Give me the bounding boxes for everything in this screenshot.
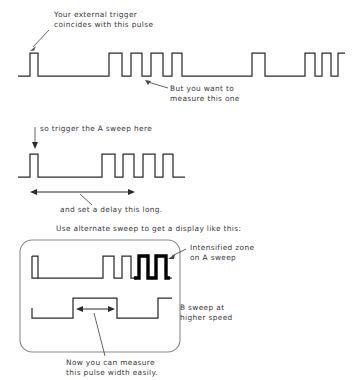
intensified-note-line1: Intensified zone	[190, 243, 254, 252]
trigger-note-line1: Your external trigger	[53, 10, 138, 19]
pulse-width-arrowhead-right	[108, 306, 115, 312]
panel-2-a-sweep-trigger: so trigger the A sweep here and set a de…	[18, 124, 185, 214]
intensified-zone-trace	[134, 256, 170, 278]
delay-span-arrowhead-left	[30, 189, 37, 195]
a-sweep-note-arrowhead	[32, 142, 38, 149]
waveform-trace-crt-b-sweep	[32, 298, 172, 318]
b-sweep-note-line2: higher speed	[180, 313, 233, 322]
a-sweep-note: so trigger the A sweep here	[40, 124, 152, 133]
delay-span-arrowhead-right	[128, 189, 135, 195]
b-sweep-note-line1: B sweep at	[180, 303, 224, 312]
pulse-width-arrowhead-left	[76, 306, 83, 312]
alternate-sweep-note: Use alternate sweep to get a display lik…	[56, 224, 241, 233]
intensified-note-line2: on A sweep	[190, 253, 236, 262]
trigger-note-line2: coincides with this pulse	[54, 20, 153, 29]
panel-1-full-pulse-train: Your external trigger coincides with thi…	[18, 10, 345, 103]
delay-note: and set a delay this long.	[60, 205, 163, 214]
delay-note-leader-line	[80, 194, 92, 205]
measure-note-line2: measure this one	[170, 94, 240, 103]
measure-note-line1: But you want to	[170, 84, 234, 93]
waveform-trace-crt-a-sweep-leadin	[32, 256, 38, 278]
waveform-trace-signal	[18, 53, 345, 76]
panel-3-crt-display: Use alternate sweep to get a display lik…	[20, 224, 254, 377]
measure-easy-line2: this pulse width easily.	[66, 368, 158, 377]
waveform-trace-crt-a-sweep	[32, 256, 172, 278]
measure-note-leader-line	[148, 82, 168, 88]
delayed-sweep-diagram: Your external trigger coincides with thi…	[0, 0, 360, 380]
diagram-root: Your external trigger coincides with thi…	[0, 0, 360, 380]
measure-easy-leader-line	[94, 313, 105, 356]
trigger-note-leader-line	[33, 30, 49, 47]
measure-easy-line1: Now you can measure	[66, 358, 155, 367]
waveform-trace-a-sweep	[18, 154, 185, 177]
